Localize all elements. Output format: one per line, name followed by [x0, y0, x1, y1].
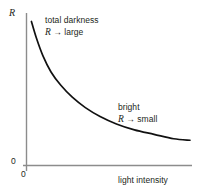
annotation-total-darkness-line2: R → large [45, 27, 99, 38]
resistance-curve [31, 21, 190, 140]
ldr-resistance-chart: R 0 0 total darkness R → large bright R … [0, 0, 200, 195]
annotation-bright-line1: bright [118, 102, 140, 112]
x-axis-origin-tick-label: 0 [21, 169, 26, 179]
annotation-bright-line2: R → small [118, 114, 157, 125]
y-axis-label: R [9, 7, 15, 18]
annotation-bright-relation: → small [124, 114, 157, 124]
annotation-total-darkness-relation: → large [51, 27, 84, 37]
x-axis-label: light intensity [118, 175, 168, 186]
y-axis-origin-tick-label: 0 [11, 156, 16, 166]
annotation-bright: bright R → small [118, 102, 157, 125]
annotation-total-darkness: total darkness R → large [45, 15, 99, 38]
annotation-total-darkness-line1: total darkness [45, 15, 99, 25]
chart-canvas [0, 0, 200, 195]
